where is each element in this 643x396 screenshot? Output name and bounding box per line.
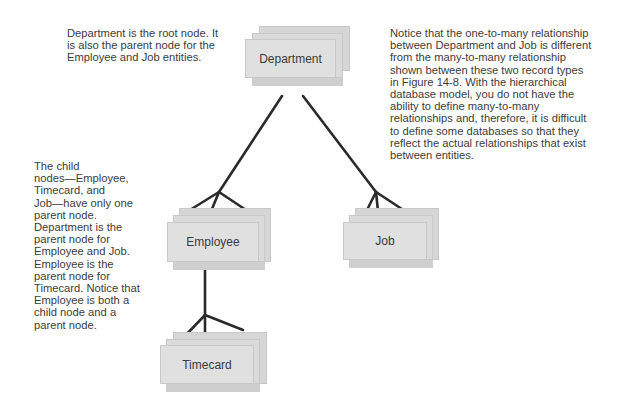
node-label-timecard: Timecard bbox=[182, 358, 232, 372]
node-label-department: Department bbox=[259, 52, 322, 66]
node-label-employee: Employee bbox=[186, 235, 239, 249]
node-label-job: Job bbox=[375, 234, 394, 248]
